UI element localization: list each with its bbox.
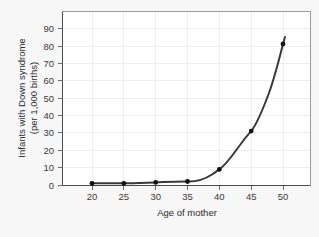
y-tick-label: 80 [43, 41, 54, 52]
y-tick-label: 20 [43, 145, 54, 156]
y-tick-label: 50 [43, 93, 54, 104]
y-tick-label: 70 [43, 58, 54, 69]
x-tick-label: 40 [214, 191, 225, 202]
down-syndrome-incidence-line-chart: 0 10 20 30 40 50 60 70 80 90 20 25 30 35… [0, 0, 319, 237]
y-tick-label: 30 [43, 127, 54, 138]
x-tick-label: 30 [150, 191, 161, 202]
x-tick-label: 50 [278, 191, 289, 202]
y-tick-label: 0 [49, 180, 54, 191]
data-point [281, 42, 286, 47]
x-tick-marks [92, 186, 283, 191]
data-point [90, 181, 95, 186]
x-tick-label: 35 [182, 191, 193, 202]
y-axis-title: Infants with Down syndrome (per 1,000 bi… [16, 38, 39, 157]
y-axis-title-line1: Infants with Down syndrome [16, 38, 27, 157]
x-tick-label: 45 [246, 191, 257, 202]
chart-figure: 0 10 20 30 40 50 60 70 80 90 20 25 30 35… [0, 0, 319, 237]
x-tick-label: 25 [119, 191, 130, 202]
y-tick-marks [58, 29, 63, 185]
data-point [185, 179, 190, 184]
y-tick-label: 60 [43, 75, 54, 86]
y-tick-labels: 0 10 20 30 40 50 60 70 80 90 [43, 23, 54, 190]
data-point [217, 167, 222, 172]
data-point [121, 181, 126, 186]
y-tick-label: 90 [43, 23, 54, 34]
y-axis-title-line2: (per 1,000 births) [28, 62, 39, 134]
x-tick-labels: 20 25 30 35 40 45 50 [87, 191, 289, 202]
y-tick-label: 40 [43, 110, 54, 121]
data-point [249, 129, 254, 134]
y-tick-label: 10 [43, 162, 54, 173]
x-axis-title: Age of mother [157, 207, 217, 218]
x-tick-label: 20 [87, 191, 98, 202]
data-point [153, 180, 158, 185]
